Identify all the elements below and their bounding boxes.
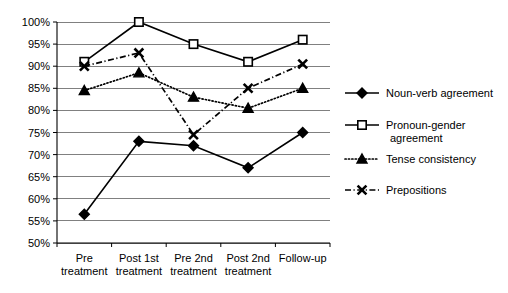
y-axis-tick-label: 55% — [28, 215, 50, 227]
series-tense-consistency — [79, 68, 307, 112]
legend-item: Tense consistency — [345, 153, 476, 165]
marker-square — [135, 18, 143, 26]
data-series-layer — [79, 18, 307, 219]
y-axis-tick-label: 100% — [22, 16, 50, 28]
legend-label: Noun-verb agreement — [386, 87, 493, 99]
x-axis-tick-label: treatment — [225, 265, 271, 277]
y-axis-tick-label: 60% — [28, 193, 50, 205]
x-axis-tick-label: treatment — [170, 265, 216, 277]
y-axis-tick-labels: 50%55%60%65%70%75%80%85%90%95%100% — [22, 16, 50, 249]
x-axis-tick-label: treatment — [116, 265, 162, 277]
y-axis-tick-label: 50% — [28, 237, 50, 249]
y-axis-tick-label: 95% — [28, 38, 50, 50]
x-axis-tick-label: Follow-up — [279, 252, 327, 264]
marker-square — [189, 40, 197, 48]
marker-diamond — [243, 163, 253, 173]
chart-legend: Noun-verb agreementPronoun-genderagreeme… — [345, 87, 493, 196]
series-pronoun-gender-agreement — [80, 18, 307, 66]
x-axis-tick-labels: PretreatmentPost 1sttreatmentPre 2ndtrea… — [61, 252, 326, 277]
series-line — [84, 73, 302, 108]
marker-triangle — [189, 92, 199, 101]
x-axis-tick-label: Post 1st — [119, 252, 159, 264]
y-axis-tick-label: 90% — [28, 60, 50, 72]
marker-square — [299, 35, 307, 43]
legend-item: Prepositions — [345, 184, 447, 196]
y-axis-tick-label: 65% — [28, 171, 50, 183]
marker-diamond — [189, 141, 199, 151]
y-axis-tick-label: 75% — [28, 127, 50, 139]
y-axis-tick-label: 70% — [28, 149, 50, 161]
legend-item: Noun-verb agreement — [345, 87, 493, 99]
legend-label: Tense consistency — [386, 153, 476, 165]
y-axis-tick-label: 85% — [28, 82, 50, 94]
marker-diamond — [298, 128, 308, 138]
chart-canvas: 50%55%60%65%70%75%80%85%90%95%100% Pretr… — [0, 0, 508, 293]
marker-square — [244, 58, 252, 66]
x-axis-tick-label: treatment — [61, 265, 107, 277]
legend-item: Pronoun-genderagreement — [345, 119, 466, 144]
line-chart: 50%55%60%65%70%75%80%85%90%95%100% Pretr… — [0, 0, 508, 293]
x-axis-tick-label: Pre 2nd — [174, 252, 213, 264]
x-axis-tick-marks — [57, 243, 330, 247]
x-axis-tick-label: Post 2nd — [226, 252, 269, 264]
marker-square — [358, 121, 366, 129]
series-noun-verb-agreement — [79, 128, 307, 220]
legend-label-continued: agreement — [390, 132, 443, 144]
y-axis-tick-label: 80% — [28, 104, 50, 116]
legend-label: Pronoun-gender — [386, 119, 466, 131]
marker-triangle — [134, 68, 144, 77]
x-axis-tick-label: Pre — [76, 252, 93, 264]
marker-diamond — [357, 88, 367, 98]
legend-label: Prepositions — [386, 184, 447, 196]
